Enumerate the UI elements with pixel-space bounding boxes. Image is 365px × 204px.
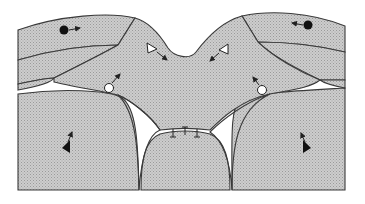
bottom-left-lobe xyxy=(18,91,139,190)
diagram-canvas xyxy=(0,0,365,204)
bottom-center-lobe xyxy=(141,131,230,190)
diagram-figure xyxy=(0,0,365,204)
